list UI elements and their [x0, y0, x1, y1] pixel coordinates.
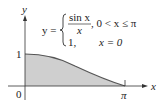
- x-tick-label: π: [121, 90, 127, 101]
- case2-condition: x = 0: [99, 37, 122, 48]
- fraction-denominator: x: [77, 25, 82, 36]
- fraction-numerator: sin x: [69, 12, 90, 23]
- x-axis-label: x: [151, 81, 156, 92]
- x-axis-arrow-icon: [142, 84, 148, 88]
- y-tick-label: 1: [16, 49, 22, 60]
- equation-lhs: y =: [42, 25, 56, 36]
- diagram: y x 0 1 π y = sin x x , 0 < x ≤ π 1, x =…: [0, 0, 165, 110]
- case2-value: 1,: [68, 37, 76, 48]
- y-axis-label: y: [22, 4, 27, 15]
- y-axis-arrow-icon: [23, 15, 27, 21]
- case1-condition: , 0 < x ≤ π: [91, 18, 136, 29]
- brace: [60, 14, 66, 46]
- origin-label: 0: [16, 89, 22, 100]
